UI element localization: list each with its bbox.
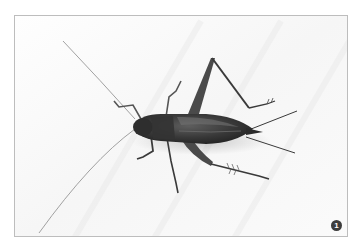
photo-frame — [14, 15, 348, 237]
figure-number-badge: 1 — [331, 220, 342, 231]
cricket-head — [133, 118, 153, 136]
pronotum — [151, 116, 175, 139]
cricket-photo — [14, 15, 348, 237]
